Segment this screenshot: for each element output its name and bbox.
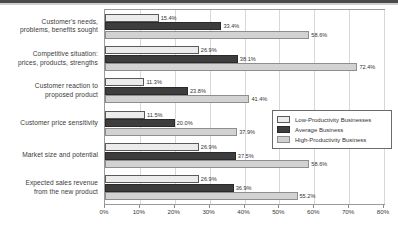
bar-low-group-1 <box>105 46 199 54</box>
bar-value-avg-group-0: 33.4% <box>223 22 239 30</box>
bar-value-high-group-3: 37.9% <box>239 128 255 136</box>
bar-low-group-2 <box>105 78 144 86</box>
bar-value-low-group-0: 15.4% <box>161 14 177 22</box>
gridline-40% <box>245 10 246 204</box>
plot-area: 15.4%33.4%58.6%26.9%38.1%72.4%11.3%23.8%… <box>104 9 385 205</box>
bar-low-group-3 <box>105 111 145 119</box>
legend-swatch-icon-high <box>277 136 290 143</box>
bar-low-group-0 <box>105 14 159 22</box>
chart-legend: Low-Productivity Businesses Average Busi… <box>272 110 392 149</box>
x-tick-label-0%: 0% <box>100 208 109 215</box>
category-label-4: Market size and potential <box>0 151 98 159</box>
category-label-0: Customer's needs,problems, benefits soug… <box>0 18 98 35</box>
bar-avg-group-2 <box>105 87 188 95</box>
bar-high-group-3 <box>105 128 237 136</box>
bar-value-low-group-4: 26.9% <box>201 143 217 151</box>
bar-high-group-5 <box>105 192 298 200</box>
bar-value-avg-group-3: 20.0% <box>177 119 193 127</box>
bar-avg-group-3 <box>105 119 175 127</box>
bar-high-group-4 <box>105 160 309 168</box>
legend-label-avg: Average Business <box>295 127 343 133</box>
bar-avg-group-4 <box>105 152 236 160</box>
x-tick-label-80%: 80% <box>377 208 389 215</box>
bar-avg-group-0 <box>105 22 221 30</box>
gridline-50% <box>279 10 280 204</box>
x-axis-tick-labels: 0%10%20%30%40%50%60%70%80% <box>0 208 398 220</box>
x-tick-label-10%: 10% <box>133 208 145 215</box>
bar-value-low-group-5: 26.9% <box>201 175 217 183</box>
bar-avg-group-1 <box>105 55 238 63</box>
gridline-70% <box>349 10 350 204</box>
bar-low-group-5 <box>105 175 199 183</box>
legend-item-high: High-Productivity Business <box>277 135 387 144</box>
bar-value-low-group-2: 11.3% <box>146 78 161 86</box>
legend-label-low: Low-Productivity Businesses <box>295 117 371 123</box>
x-tick-label-70%: 70% <box>342 208 354 215</box>
bar-value-low-group-3: 11.5% <box>147 111 162 119</box>
legend-swatch-icon-avg <box>277 126 290 133</box>
gridline-80% <box>384 10 385 204</box>
bar-value-avg-group-2: 23.8% <box>190 87 206 95</box>
legend-swatch-icon-low <box>277 116 290 123</box>
bar-value-low-group-1: 26.9% <box>201 46 217 54</box>
header-strip-shadow <box>0 3 398 5</box>
bar-value-high-group-5: 55.2% <box>300 192 316 200</box>
x-tick-label-60%: 60% <box>307 208 319 215</box>
bar-value-avg-group-1: 38.1% <box>240 55 256 63</box>
bar-value-avg-group-5: 36.9% <box>236 184 252 192</box>
bar-value-high-group-1: 72.4% <box>359 63 375 71</box>
x-tick-label-40%: 40% <box>237 208 249 215</box>
bar-value-high-group-4: 58.6% <box>311 160 327 168</box>
legend-label-high: High-Productivity Business <box>295 137 366 143</box>
category-label-5: Expected sales revenuefrom the new produ… <box>0 179 98 196</box>
x-tick-label-30%: 30% <box>202 208 214 215</box>
category-label-1: Competitive situation:prices, products, … <box>0 50 98 67</box>
grouped-bar-chart: Customer's needs,problems, benefits soug… <box>0 0 398 231</box>
bar-high-group-2 <box>105 95 249 103</box>
legend-item-avg: Average Business <box>277 125 387 134</box>
bar-value-high-group-2: 41.4% <box>251 95 267 103</box>
category-axis-labels: Customer's needs,problems, benefits soug… <box>0 9 102 205</box>
bar-low-group-4 <box>105 143 199 151</box>
bar-high-group-1 <box>105 63 357 71</box>
bar-value-high-group-0: 58.6% <box>311 31 327 39</box>
x-tick-label-20%: 20% <box>168 208 180 215</box>
bar-avg-group-5 <box>105 184 234 192</box>
gridline-60% <box>314 10 315 204</box>
category-label-2: Customer reaction toproposed product <box>0 82 98 99</box>
bar-value-avg-group-4: 37.5% <box>238 152 254 160</box>
x-tick-label-50%: 50% <box>272 208 284 215</box>
category-label-3: Customer price sensitivity <box>0 119 98 127</box>
bar-high-group-0 <box>105 31 309 39</box>
legend-item-low: Low-Productivity Businesses <box>277 115 387 124</box>
